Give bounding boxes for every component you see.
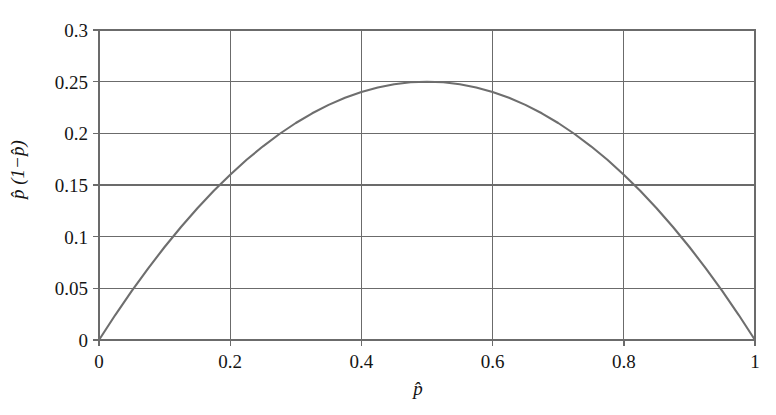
x-tick-label-0.6: 0.6 [481, 352, 505, 371]
x-axis-title-text: p̂ [413, 378, 423, 399]
y-tick-label-0.1: 0.1 [40, 227, 88, 246]
y-axis-title: p̂ (1−p̂) [8, 173, 27, 199]
x-tick-label-0: 0 [94, 352, 104, 371]
x-axis-ticks [99, 340, 755, 346]
y-tick-label-0.05: 0.05 [40, 279, 88, 298]
y-tick-label-0.25: 0.25 [40, 72, 88, 91]
y-tick-label-0: 0 [40, 331, 88, 350]
y-axis-ticks [93, 30, 99, 340]
y-axis-title-text: p̂ (1−p̂) [8, 140, 27, 199]
x-tick-label-0.8: 0.8 [612, 352, 636, 371]
x-tick-label-0.4: 0.4 [350, 352, 374, 371]
y-tick-label-0.2: 0.2 [40, 124, 88, 143]
y-tick-label-0.15: 0.15 [40, 176, 88, 195]
horizontal-gridlines [99, 82, 755, 289]
x-tick-label-1: 1 [750, 352, 760, 371]
plot-canvas [0, 0, 776, 415]
x-axis-title: p̂ [413, 379, 423, 398]
y-tick-label-0.3: 0.3 [40, 21, 88, 40]
variance-curve [99, 82, 755, 340]
chart-figure: 0.3 0.25 0.2 0.15 0.1 0.05 0 0 0.2 0.4 0… [0, 0, 776, 415]
x-tick-label-0.2: 0.2 [218, 352, 242, 371]
